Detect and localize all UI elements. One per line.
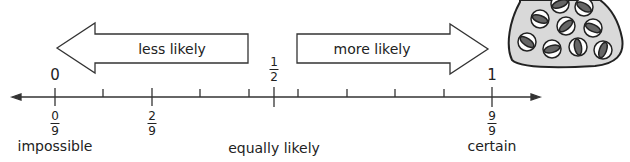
denominator: 9 [148, 125, 156, 137]
half-numerator: 1 [270, 56, 278, 68]
half-fraction: 1 2 [270, 56, 279, 83]
more-likely-label: more likely [334, 41, 411, 57]
denominator: 9 [51, 125, 59, 137]
impossible-label: impossible [18, 138, 93, 154]
fraction-0-9: 0 9 [51, 110, 60, 137]
numerator: 9 [488, 110, 496, 122]
fraction-9-9: 9 9 [488, 110, 497, 137]
probability-diagram [0, 0, 630, 162]
marble-bag-icon [509, 0, 623, 67]
number-line [12, 87, 540, 107]
zero-label: 0 [50, 66, 60, 84]
numerator: 0 [51, 110, 59, 122]
fraction-2-9: 2 9 [148, 110, 157, 137]
certain-label: certain [468, 138, 517, 154]
numerator: 2 [148, 110, 156, 122]
denominator: 9 [488, 125, 496, 137]
half-denominator: 2 [270, 71, 278, 83]
less-likely-label: less likely [138, 41, 206, 57]
one-label: 1 [487, 66, 497, 84]
equally-likely-label: equally likely [228, 140, 320, 156]
